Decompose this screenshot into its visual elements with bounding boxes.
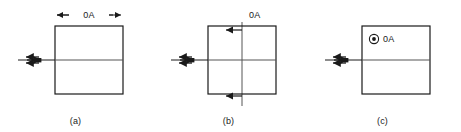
center-dot-icon bbox=[37, 58, 41, 62]
panel-caption: (b) bbox=[152, 116, 305, 126]
label-0a: 0A bbox=[83, 10, 94, 20]
panel-a: 0A (a) bbox=[0, 0, 153, 132]
panel-caption: (c) bbox=[306, 116, 459, 126]
cross-arrow-cluster bbox=[171, 57, 208, 63]
cross-arrow-cluster bbox=[325, 57, 362, 63]
panel-c: 0A (c) bbox=[307, 0, 460, 132]
panel-b: 0A (b) bbox=[153, 0, 306, 132]
label-0a: 0A bbox=[383, 34, 394, 44]
figure-three-panel-diagram: 0A (a) bbox=[0, 0, 461, 132]
center-dot-icon bbox=[190, 58, 194, 62]
cross-arrow-cluster bbox=[18, 57, 55, 63]
label-0a: 0A bbox=[249, 10, 260, 20]
panel-b-graphic: 0A bbox=[153, 0, 306, 132]
center-dot-icon bbox=[344, 58, 348, 62]
circled-dot-out-of-page-icon bbox=[369, 34, 378, 43]
panel-a-graphic: 0A bbox=[0, 0, 153, 132]
panel-caption: (a) bbox=[0, 116, 152, 126]
panel-c-graphic: 0A bbox=[307, 0, 460, 132]
